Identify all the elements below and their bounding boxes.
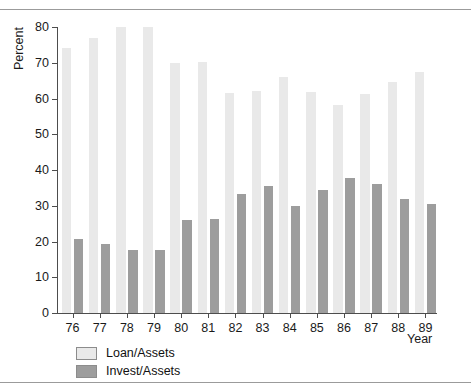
bar-loan-assets-83: [252, 91, 262, 313]
top-divider-rule: [0, 9, 471, 10]
legend-item-invest-assets: Invest/Assets: [76, 363, 180, 379]
chart-legend: Loan/Assets Invest/Assets: [76, 345, 180, 381]
y-axis-line: [57, 27, 58, 314]
x-axis-tick-label: 77: [93, 321, 107, 335]
bar-loan-assets-80: [170, 63, 180, 313]
x-axis-tick: [371, 313, 372, 318]
bar-loan-assets-77: [89, 38, 99, 313]
y-axis-tick-label: 50: [35, 127, 49, 141]
y-axis-tick: [52, 170, 57, 171]
bar-invest-assets-81: [210, 219, 220, 313]
legend-label-invest-assets: Invest/Assets: [106, 364, 180, 378]
bar-loan-assets-79: [143, 27, 153, 313]
y-axis-tick-label: 20: [35, 235, 49, 249]
x-axis-tick-label: 76: [66, 321, 80, 335]
y-axis-tick-label: 30: [35, 199, 49, 213]
bottom-divider-rule: [0, 382, 471, 383]
x-axis-tick: [208, 313, 209, 318]
x-axis-tick: [73, 313, 74, 318]
y-axis-tick: [52, 134, 57, 135]
y-axis-tick-label: 60: [35, 92, 49, 106]
x-axis-tick-label: 79: [147, 321, 161, 335]
x-axis-tick-label: 78: [120, 321, 134, 335]
x-axis-tick: [398, 313, 399, 318]
legend-swatch-icon-invest-assets: [76, 365, 97, 378]
y-axis-tick-label: 10: [35, 270, 49, 284]
y-axis-tick-label: 80: [35, 20, 49, 34]
bar-loan-assets-85: [306, 92, 316, 313]
bar-loan-assets-86: [333, 105, 343, 313]
y-axis-tick: [52, 206, 57, 207]
y-axis-tick: [52, 99, 57, 100]
bar-invest-assets-88: [400, 199, 410, 313]
bar-invest-assets-89: [427, 204, 437, 313]
bar-invest-assets-77: [101, 244, 111, 313]
bar-loan-assets-76: [62, 48, 72, 313]
legend-swatch-icon-loan-assets: [76, 347, 97, 360]
x-axis-tick-label: 87: [364, 321, 378, 335]
bar-loan-assets-89: [415, 72, 425, 313]
bar-invest-assets-87: [372, 184, 382, 313]
x-axis-tick-label: 84: [283, 321, 297, 335]
x-axis-tick-label: 86: [337, 321, 351, 335]
y-axis-tick-label: 0: [42, 306, 49, 320]
x-axis-tick: [181, 313, 182, 318]
bar-invest-assets-76: [74, 239, 84, 313]
bar-invest-assets-84: [291, 206, 301, 313]
y-axis-tick-label: 70: [35, 56, 49, 70]
bar-invest-assets-85: [318, 190, 328, 313]
y-axis-tick: [52, 27, 57, 28]
x-axis-tick: [317, 313, 318, 318]
bar-invest-assets-86: [345, 178, 355, 313]
x-axis-tick-label: 89: [418, 321, 432, 335]
x-axis-tick: [263, 313, 264, 318]
bar-invest-assets-78: [128, 250, 138, 313]
x-axis-tick-label: 82: [228, 321, 242, 335]
legend-item-loan-assets: Loan/Assets: [76, 345, 180, 361]
x-axis-line: [57, 313, 437, 314]
x-axis-tick: [100, 313, 101, 318]
plot-area: 01020304050607080 7677787980818283848586…: [57, 27, 437, 314]
bar-loan-assets-84: [279, 77, 289, 313]
bar-loan-assets-87: [360, 94, 370, 314]
x-axis-tick-label: 88: [391, 321, 405, 335]
y-axis-tick: [52, 63, 57, 64]
x-axis-tick: [425, 313, 426, 318]
x-axis-tick: [344, 313, 345, 318]
bar-loan-assets-88: [388, 82, 398, 313]
x-axis-tick: [235, 313, 236, 318]
y-axis-tick: [52, 313, 57, 314]
bar-loan-assets-81: [198, 62, 208, 313]
x-axis-tick-label: 80: [174, 321, 188, 335]
y-axis-tick-label: 40: [35, 163, 49, 177]
chart-figure: Percent Year 01020304050607080 767778798…: [0, 0, 471, 392]
y-axis-tick: [52, 242, 57, 243]
x-axis-tick: [154, 313, 155, 318]
y-axis-title: Percent: [12, 27, 26, 70]
bar-invest-assets-79: [155, 250, 165, 313]
bar-invest-assets-83: [264, 186, 274, 313]
x-axis-tick: [127, 313, 128, 318]
x-axis-tick-label: 81: [201, 321, 215, 335]
x-axis-tick: [290, 313, 291, 318]
bar-loan-assets-78: [116, 27, 126, 313]
bar-invest-assets-82: [237, 194, 247, 313]
bar-invest-assets-80: [182, 220, 192, 313]
bar-loan-assets-82: [225, 93, 235, 313]
x-axis-tick-label: 85: [310, 321, 324, 335]
legend-label-loan-assets: Loan/Assets: [106, 346, 175, 360]
y-axis-tick: [52, 277, 57, 278]
x-axis-tick-label: 83: [256, 321, 270, 335]
